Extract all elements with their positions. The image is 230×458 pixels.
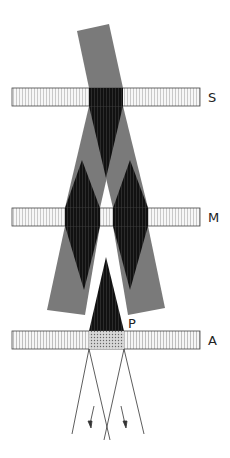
incoming-beam bbox=[77, 24, 123, 88]
label-p: P bbox=[128, 316, 136, 331]
arrow-left-icon bbox=[88, 406, 94, 428]
label-m: M bbox=[208, 210, 219, 225]
label-a: A bbox=[208, 333, 217, 348]
arrow-right-icon bbox=[121, 406, 127, 428]
plate-m bbox=[12, 208, 200, 226]
diagram-canvas: S M A P bbox=[0, 0, 230, 458]
output-rays bbox=[72, 349, 144, 440]
central-overlap bbox=[89, 257, 124, 331]
plate-a-illuminated-region bbox=[89, 331, 124, 349]
label-s: S bbox=[208, 90, 216, 105]
